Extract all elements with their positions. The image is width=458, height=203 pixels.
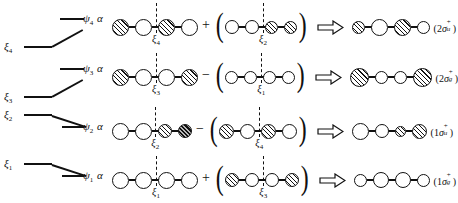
- row-psi2-term1-orbital-2-white: [135, 123, 152, 140]
- row-psi2-result-orbital-3-hatch: [395, 126, 406, 137]
- row-psi2-term1-node-divider: [155, 107, 156, 137]
- row-psi3-term-1: ξ3: [112, 57, 198, 97]
- row-psi4-result-orbital-1-hatch: [352, 21, 365, 34]
- row-psi2-term2-orbital-2-white: [240, 124, 255, 139]
- row-psi2-term2: ξ4: [219, 111, 297, 151]
- alpha-symbol-psi1: α: [97, 169, 103, 181]
- row-psi4-term1-orbital-4-white: [181, 19, 198, 36]
- row-psi1-result: [354, 160, 430, 200]
- row-psi2-term2-node-divider: [259, 107, 260, 137]
- row-psi2-implies-arrow: [317, 124, 344, 139]
- row-psi3-term1-orbital-2-white: [135, 69, 152, 86]
- row-psi2-result-label: (1σ+u): [431, 125, 454, 138]
- row-psi1-term2-orbital-1-hatch: [225, 173, 239, 187]
- row-psi3-term1-divider-tag: ξ3: [152, 83, 160, 97]
- alpha-symbol-psi2: α: [97, 120, 103, 132]
- row-psi3-term2-orbital-4-white: [282, 71, 295, 84]
- row-psi1-term1-divider-tag: ξ1: [152, 186, 160, 200]
- row-psi4-operator: +: [198, 18, 214, 32]
- row-psi4-result-orbital-2-white: [371, 19, 388, 36]
- row-psi4-result: [352, 7, 430, 47]
- row-psi4-term2-orbital-1-white: [225, 20, 239, 34]
- row-psi3-operator: −: [198, 68, 214, 82]
- row-psi3-result-orbital-3-white: [394, 71, 407, 84]
- row-psi4-term1: ξ4: [112, 7, 198, 47]
- energy-level-line-xi4: [24, 46, 52, 48]
- energy-correlation-line-4: [52, 29, 83, 47]
- energy-level-line-xi2: [24, 114, 52, 116]
- row-psi2-term2-divider-tag: ξ4: [255, 137, 263, 151]
- row-psi3-result-label: (2σ+g): [436, 71, 458, 84]
- row-psi1-result-orbital-2-white: [373, 172, 389, 188]
- row-psi4-term2-orbital-3-hatch: [265, 21, 278, 34]
- row-psi1-term2-orbital-2-white: [245, 173, 259, 187]
- row-psi3-result-orbital-1-hatch: [350, 68, 369, 87]
- energy-label-xi1: ξ1: [4, 157, 12, 172]
- expression-row-psi3: ξ3−(ξ1)(2σ+g): [112, 52, 458, 102]
- row-psi1-term1-node-divider: [156, 156, 157, 186]
- row-psi4-result: [352, 7, 430, 47]
- row-psi3-term1-orbital-1-hatch: [112, 69, 129, 86]
- row-psi4-term-1: ξ4: [112, 7, 198, 47]
- row-psi2-term1-orbital-4-dark: [178, 124, 192, 138]
- row-psi2-result-orbital-1-white: [352, 123, 369, 140]
- row-psi4-term1-node-divider: [156, 3, 157, 33]
- row-psi3-term2-orbital-2-white: [244, 71, 257, 84]
- row-psi1-term1: ξ1: [112, 160, 198, 200]
- row-psi3-result-orbital-4-hatch: [413, 68, 432, 87]
- row-psi1-term-2: (ξ3): [214, 160, 311, 200]
- mo-level-line-psi4: [60, 18, 84, 20]
- row-psi3-result-orbital-2-white: [375, 71, 388, 84]
- row-psi1-term2-node-divider: [263, 156, 264, 186]
- row-psi3-term1-orbital-3-white: [158, 69, 175, 86]
- row-psi4-term-2: (ξ2): [214, 7, 309, 47]
- expression-row-psi2: ξ2−(ξ4)(1σ+u): [112, 106, 453, 156]
- row-psi1-term-1: ξ1: [112, 160, 198, 200]
- row-psi1-term2: ξ3: [225, 160, 299, 200]
- row-psi4-term1-orbital-2-white: [135, 19, 152, 36]
- expression-row-psi1: ξ1+(ξ3)(1σ+g): [112, 155, 456, 203]
- row-psi1-term2-divider-tag: ξ3: [259, 186, 267, 200]
- row-psi3-term2-node-divider: [261, 53, 262, 83]
- row-psi3-implies-arrow: [315, 70, 342, 85]
- energy-label-xi2: ξ2: [4, 108, 12, 123]
- mo-label-psi1: ψ1: [83, 169, 93, 184]
- row-psi1-result: [354, 160, 430, 200]
- row-psi4-term1-divider-tag: ξ4: [152, 33, 160, 47]
- row-psi3-term-2: (ξ1): [214, 57, 307, 97]
- row-psi4-result-orbital-4-white: [417, 21, 430, 34]
- row-psi1-result-orbital-4-white: [417, 174, 430, 187]
- row-psi2-term1-orbital-3-hatch: [158, 124, 172, 138]
- expression-row-psi4: ξ4+(ξ2)(2σ+u): [112, 2, 456, 52]
- energy-level-line-xi3: [24, 96, 52, 98]
- row-psi3-term2-orbital-1-white: [225, 71, 238, 84]
- row-psi2-result: [352, 111, 427, 151]
- row-psi1-term1-orbital-4-white: [181, 172, 198, 189]
- row-psi4-term2-node-divider: [263, 3, 264, 33]
- row-psi1-operator: +: [198, 171, 214, 185]
- row-psi4-implies-arrow: [317, 20, 344, 35]
- row-psi4-term2-divider-tag: ξ2: [259, 33, 267, 47]
- row-psi2-term-1: ξ2: [112, 111, 192, 151]
- energy-label-xi4: ξ4: [4, 40, 12, 55]
- row-psi4-term1-orbital-3-hatch: [158, 19, 175, 36]
- row-psi3-result: [350, 57, 432, 97]
- row-psi2-term1-orbital-1-white: [112, 123, 129, 140]
- row-psi1-term2-orbital-4-hatch: [285, 173, 299, 187]
- row-psi2-result: [352, 111, 427, 151]
- row-psi1-term2-orbital-3-white: [265, 173, 279, 187]
- row-psi4-result-orbital-3-hatch: [394, 19, 411, 36]
- row-psi2-term2-orbital-3-hatch: [261, 124, 276, 139]
- energy-label-xi3: ξ3: [4, 90, 12, 105]
- row-psi2-operator: −: [192, 122, 208, 136]
- row-psi2-term1-divider-tag: ξ2: [151, 137, 159, 151]
- row-psi1-term1-orbital-2-white: [135, 172, 152, 189]
- mo-label-psi2: ψ2: [83, 120, 93, 135]
- row-psi1-result-label: (1σ+g): [434, 174, 457, 187]
- row-psi1-implies-arrow: [319, 173, 346, 188]
- row-psi4-term2-orbital-4-hatch: [284, 21, 297, 34]
- row-psi3-term2-divider-tag: ξ1: [257, 83, 265, 97]
- row-psi4-result-label: (2σ+u): [434, 21, 457, 34]
- row-psi4-term1-orbital-1-hatch: [112, 19, 129, 36]
- row-psi2-term-2: (ξ4): [208, 111, 309, 151]
